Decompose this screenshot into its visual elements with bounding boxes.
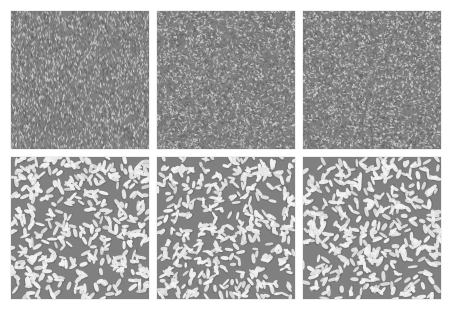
texture-panel-top-center[interactable] [157,11,295,149]
texture-panel-top-left[interactable] [11,11,149,149]
texture-canvas-top-left [11,11,149,149]
texture-panel-top-right[interactable] [303,11,441,149]
texture-canvas-bottom-right [303,157,441,299]
figure-root [0,0,452,320]
texture-canvas-bottom-center [157,157,295,299]
texture-panel-bottom-right[interactable] [303,157,441,299]
texture-panel-bottom-left[interactable] [11,157,149,299]
texture-canvas-bottom-left [11,157,149,299]
texture-panel-grid [11,11,441,309]
texture-canvas-top-right [303,11,441,149]
texture-canvas-top-center [157,11,295,149]
texture-panel-bottom-center[interactable] [157,157,295,299]
